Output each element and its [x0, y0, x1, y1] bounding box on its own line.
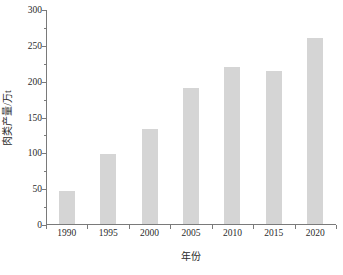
y-axis-tick-major [42, 10, 46, 11]
y-axis-tick-major [42, 189, 46, 190]
x-axis-tick-label: 2020 [306, 228, 325, 238]
y-axis-tick-labels: 050100150200250300 [14, 10, 42, 225]
x-axis-tick-label: 2010 [223, 228, 242, 238]
x-axis-tick-label: 1990 [57, 228, 76, 238]
x-axis-tick-label: 2015 [264, 228, 283, 238]
plot-area [46, 10, 336, 225]
bar [224, 67, 240, 224]
x-axis-spine [46, 224, 336, 225]
y-axis-tick-major [42, 153, 46, 154]
y-axis-tick-minor [44, 28, 47, 29]
bar [183, 88, 199, 224]
bar [59, 191, 75, 224]
y-axis-tick-minor [44, 207, 47, 208]
y-axis-title-label: 肉类产量/万t [3, 90, 13, 146]
bar [266, 71, 282, 224]
x-axis-tick [336, 225, 337, 229]
bar [307, 38, 323, 224]
bar [100, 154, 116, 224]
x-axis-tick-label: 2005 [182, 228, 201, 238]
y-axis-tick-label: 100 [28, 148, 42, 158]
y-axis-tick-label: 50 [33, 184, 43, 194]
y-axis-tick-major [42, 82, 46, 83]
x-axis-tick-labels: 1990199520002005201020152020 [46, 228, 336, 244]
y-axis-tick-minor [44, 100, 47, 101]
y-axis-tick-label: 200 [28, 77, 42, 87]
y-axis-tick-minor [44, 171, 47, 172]
y-axis-tick-label: 250 [28, 41, 42, 51]
y-axis-tick-label: 300 [28, 5, 42, 15]
x-axis-tick-label: 2000 [140, 228, 159, 238]
y-axis-tick-major [42, 46, 46, 47]
y-axis-spine [46, 10, 47, 225]
y-axis-tick-label: 150 [28, 113, 42, 123]
x-axis-tick-label: 1995 [99, 228, 118, 238]
bar [142, 129, 158, 224]
y-axis-tick-major [42, 118, 46, 119]
y-axis-tick-minor [44, 64, 47, 65]
y-axis-tick-minor [44, 135, 47, 136]
x-axis-title: 年份 [46, 248, 336, 263]
bar-chart: 肉类产量/万t 050100150200250300 1990199520002… [0, 0, 343, 275]
